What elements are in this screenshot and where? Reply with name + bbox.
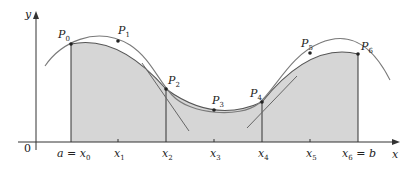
y-axis-label: y [24, 8, 32, 21]
svg-text:P3: P3 [211, 94, 224, 109]
svg-text:x4: x4 [258, 147, 269, 162]
svg-text:x5: x5 [306, 147, 317, 162]
svg-text:P5: P5 [300, 37, 313, 52]
simpson-rule-diagram: y x 0 P0 P1 P2 P3 P4 P5 P6 a = x0 x1 x2 … [0, 0, 415, 169]
origin-label: 0 [24, 142, 31, 155]
svg-text:P2: P2 [167, 74, 180, 89]
svg-text:P6: P6 [360, 40, 373, 55]
svg-text:x3: x3 [210, 147, 221, 162]
svg-text:x2: x2 [162, 147, 173, 162]
y-axis-arrow-icon [33, 11, 39, 19]
svg-text:P4: P4 [249, 87, 262, 102]
svg-text:x6 = b: x6 = b [342, 147, 376, 162]
x-axis-arrow-icon [392, 139, 400, 145]
x-axis-label: x [392, 148, 399, 161]
diagram-canvas: y x 0 P0 P1 P2 P3 P4 P5 P6 a = x0 x1 x2 … [0, 0, 415, 169]
svg-text:P0: P0 [57, 28, 70, 43]
tick-labels: a = x0 x1 x2 x3 x4 x5 x6 = b [57, 147, 376, 162]
svg-text:P1: P1 [117, 24, 130, 39]
svg-text:a = x0: a = x0 [57, 147, 90, 162]
svg-text:x1: x1 [114, 147, 125, 162]
